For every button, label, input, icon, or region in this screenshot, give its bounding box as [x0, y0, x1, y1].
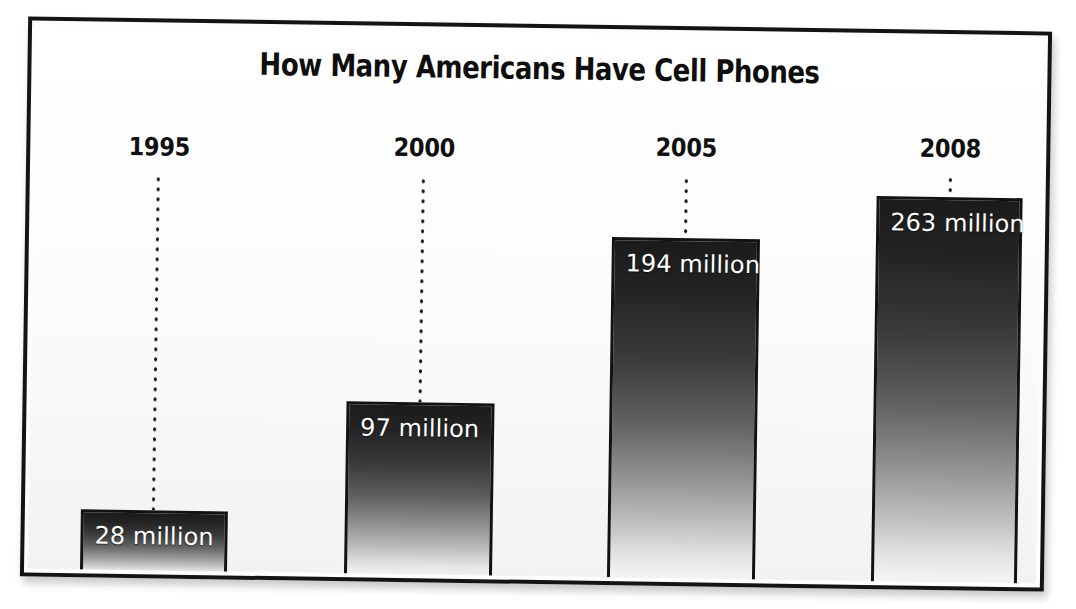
leader-line-1995	[151, 174, 161, 510]
scanned-page: How Many Americans Have Cell Phones 1995…	[0, 0, 1076, 609]
leader-line-2000	[418, 176, 426, 402]
bar-value-2005: 194 million	[625, 249, 760, 279]
bar-chart: How Many Americans Have Cell Phones 1995…	[28, 25, 1044, 584]
bar-value-1995: 28 million	[94, 521, 214, 551]
bar-value-2008: 263 million	[890, 208, 1025, 238]
bar-2005[interactable]: 194 million	[607, 237, 760, 583]
x-axis-label-2000: 2000	[352, 132, 496, 163]
bar-1995[interactable]: 28 million	[80, 509, 228, 579]
leader-line-2005	[683, 176, 689, 238]
bar-2000[interactable]: 97 million	[344, 401, 495, 583]
chart-frame-wrapper: How Many Americans Have Cell Phones 1995…	[20, 16, 1052, 591]
x-axis-label-1995: 1995	[87, 131, 231, 162]
bar-value-2000: 97 million	[360, 413, 480, 443]
x-axis-label-2005: 2005	[614, 132, 758, 163]
bar-2008[interactable]: 263 million	[871, 196, 1023, 583]
chart-frame: How Many Americans Have Cell Phones 1995…	[20, 16, 1052, 591]
chart-title: How Many Americans Have Cell Phones	[116, 44, 963, 93]
x-axis-label-2008: 2008	[878, 133, 1022, 164]
leader-line-2008	[948, 175, 953, 197]
